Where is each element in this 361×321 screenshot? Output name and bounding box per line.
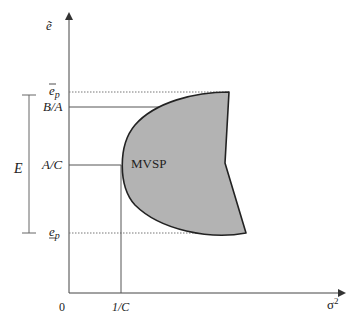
svg-text:ep: ep xyxy=(49,83,60,100)
x-axis-label: σ2 xyxy=(327,296,339,312)
svg-text:ep: ep xyxy=(49,224,60,241)
range-bracket-label: E xyxy=(13,161,23,176)
mvsp-diagram: MVSP ẽ ep B/A A/C ep E 0 1/C σ2 xyxy=(0,0,361,321)
origin-label: 0 xyxy=(59,300,65,314)
a-over-c-label: A/C xyxy=(41,157,63,172)
region-label: MVSP xyxy=(131,156,166,171)
y-axis-label: ẽ xyxy=(46,18,53,33)
b-over-a-label: B/A xyxy=(43,99,63,114)
one-over-c-label: 1/C xyxy=(112,300,130,314)
range-bracket xyxy=(22,95,36,233)
e-upper-label: ep xyxy=(49,83,60,100)
e-lower-label: ep xyxy=(49,224,60,241)
